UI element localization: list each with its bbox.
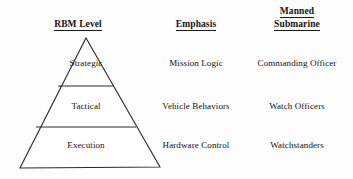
tier-label-tactical: Tactical <box>38 101 134 111</box>
manned-submarine-cell-tactical: Watch Officers <box>247 101 347 111</box>
manned-submarine-cell-strategic: Commanding Officer <box>247 58 347 68</box>
manned-submarine-cell-execution: Watchstanders <box>247 140 347 150</box>
emphasis-cell-execution: Hardware Control <box>146 140 246 150</box>
rbm-level-pyramid-diagram: RBM Level Emphasis Manned Submarine Stra… <box>0 0 353 179</box>
emphasis-cell-tactical: Vehicle Behaviors <box>146 101 246 111</box>
emphasis-cell-strategic: Mission Logic <box>146 58 246 68</box>
tier-label-execution: Execution <box>38 140 134 150</box>
pyramid-shape <box>0 0 353 179</box>
tier-label-strategic: Strategic <box>38 58 134 68</box>
